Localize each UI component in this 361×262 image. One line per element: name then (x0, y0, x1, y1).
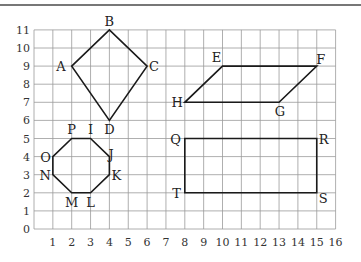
octagon-shape (53, 139, 110, 193)
y-tick-label: 0 (23, 223, 30, 236)
vertex-label-p: P (67, 122, 76, 137)
y-tick-label: 5 (23, 133, 30, 146)
x-tick-label: 6 (144, 236, 151, 249)
vertex-label-q: Q (170, 132, 181, 147)
y-tick-label: 6 (23, 114, 30, 127)
x-tick-label: 13 (272, 236, 286, 249)
x-tick-label: 1 (49, 236, 56, 249)
vertex-label-l: L (86, 195, 95, 210)
vertex-label-k: K (111, 168, 121, 183)
x-tick-label: 12 (253, 236, 267, 249)
y-tick-label: 8 (23, 78, 30, 91)
y-axis-ticks: 01234567891011 (16, 24, 30, 236)
y-tick-label: 1 (23, 205, 30, 218)
y-tick-label: 9 (23, 60, 30, 73)
x-tick-label: 3 (87, 236, 94, 249)
x-tick-label: 2 (68, 236, 75, 249)
x-tick-label: 15 (310, 236, 324, 249)
x-tick-label: 16 (329, 236, 343, 249)
vertex-label-h: H (171, 95, 182, 110)
y-tick-label: 10 (16, 42, 30, 55)
vertex-label-i: I (88, 122, 93, 137)
vertex-label-s: S (319, 191, 328, 206)
x-tick-label: 14 (291, 236, 305, 249)
y-tick-label: 3 (23, 169, 30, 182)
vertex-label-c: C (149, 59, 159, 74)
x-tick-label: 11 (234, 236, 248, 249)
y-tick-label: 7 (23, 96, 30, 109)
vertex-label-a: A (55, 59, 66, 74)
x-tick-label: 9 (200, 236, 207, 249)
vertex-label-f: F (316, 52, 325, 67)
y-tick-label: 4 (23, 151, 30, 164)
x-tick-label: 7 (162, 236, 169, 249)
vertex-label-g: G (275, 104, 285, 119)
vertex-label-t: T (172, 186, 181, 201)
x-tick-label: 5 (125, 236, 132, 249)
vertex-label-n: N (39, 168, 50, 183)
vertex-label-e: E (212, 50, 222, 65)
x-tick-label: 10 (216, 236, 230, 249)
vertex-label-m: M (65, 195, 78, 210)
vertex-label-r: R (319, 132, 330, 147)
x-tick-label: 8 (181, 236, 188, 249)
coordinate-grid: 12345678910111213141516 01234567891011 A… (0, 0, 361, 262)
vertex-label-b: B (105, 14, 115, 29)
vertex-label-j: J (106, 147, 113, 162)
rectangle-shape (185, 139, 317, 193)
vertex-label-o: O (40, 150, 51, 165)
x-tick-label: 4 (106, 236, 113, 249)
y-tick-label: 11 (16, 24, 30, 37)
x-axis-ticks: 12345678910111213141516 (49, 236, 342, 249)
vertex-label-d: D (104, 122, 114, 137)
y-tick-label: 2 (23, 187, 30, 200)
